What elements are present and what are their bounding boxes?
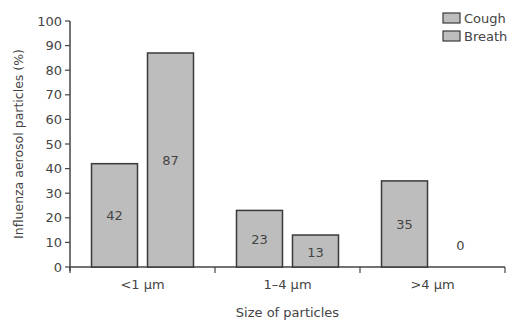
y-tick-label: 20 — [45, 210, 62, 225]
y-tick-label: 30 — [45, 186, 62, 201]
x-category-label: <1 µm — [120, 277, 164, 292]
bar-value-label: 87 — [162, 153, 179, 168]
x-category-label: >4 µm — [410, 277, 454, 292]
x-category-label: 1–4 µm — [263, 277, 311, 292]
y-tick-label: 90 — [45, 38, 62, 53]
y-tick-label: 80 — [45, 63, 62, 78]
y-tick-label: 50 — [45, 137, 62, 152]
chart-canvas: 01020304050607080901004287<1 µm23131–4 µ… — [0, 0, 517, 330]
y-tick-label: 100 — [37, 14, 62, 29]
y-tick-label: 0 — [54, 260, 62, 275]
y-axis-title: Influenza aerosol particles (%) — [11, 49, 26, 239]
bar-value-label: 13 — [307, 245, 324, 260]
x-axis-title: Size of particles — [236, 305, 340, 320]
bar-chart: 01020304050607080901004287<1 µm23131–4 µ… — [0, 0, 517, 330]
bar-value-label: 23 — [251, 232, 268, 247]
legend-label-breath: Breath — [464, 29, 507, 44]
y-tick-label: 10 — [45, 235, 62, 250]
legend-swatch-cough — [443, 13, 460, 23]
legend-label-cough: Cough — [464, 11, 506, 26]
y-tick-label: 70 — [45, 87, 62, 102]
bar-value-label: 35 — [396, 217, 413, 232]
legend-swatch-breath — [443, 31, 460, 41]
bar-value-label: 0 — [456, 238, 464, 253]
y-tick-label: 40 — [45, 161, 62, 176]
bar-value-label: 42 — [106, 208, 123, 223]
y-tick-label: 60 — [45, 112, 62, 127]
